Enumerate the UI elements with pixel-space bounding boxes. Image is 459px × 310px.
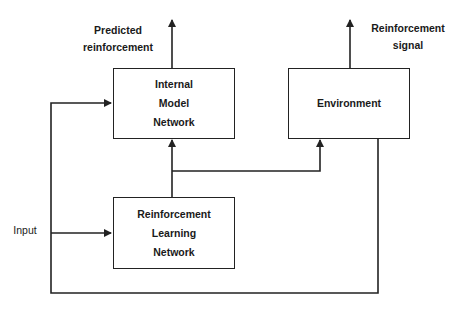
node-label: Learning [152, 224, 196, 243]
environment-box: Environment [288, 68, 410, 139]
node-label: Environment [317, 94, 381, 113]
predicted-reinforcement-label: Predicted reinforcement [78, 22, 158, 56]
label-line: signal [368, 37, 448, 54]
reinforcement-signal-label: Reinforcement signal [368, 20, 448, 54]
node-label: Model [159, 94, 189, 113]
label-line: reinforcement [78, 39, 158, 56]
input-label: Input [8, 222, 42, 239]
node-label: Internal [155, 75, 193, 94]
node-label: Network [153, 243, 194, 262]
rl-to-env-arrow [172, 140, 320, 171]
reinforcement-learning-network-box: Reinforcement Learning Network [113, 197, 235, 269]
node-label: Reinforcement [137, 205, 211, 224]
label-line: Reinforcement [368, 20, 448, 37]
internal-model-network-box: Internal Model Network [113, 68, 235, 139]
label-line: Predicted [78, 22, 158, 39]
node-label: Network [153, 113, 194, 132]
